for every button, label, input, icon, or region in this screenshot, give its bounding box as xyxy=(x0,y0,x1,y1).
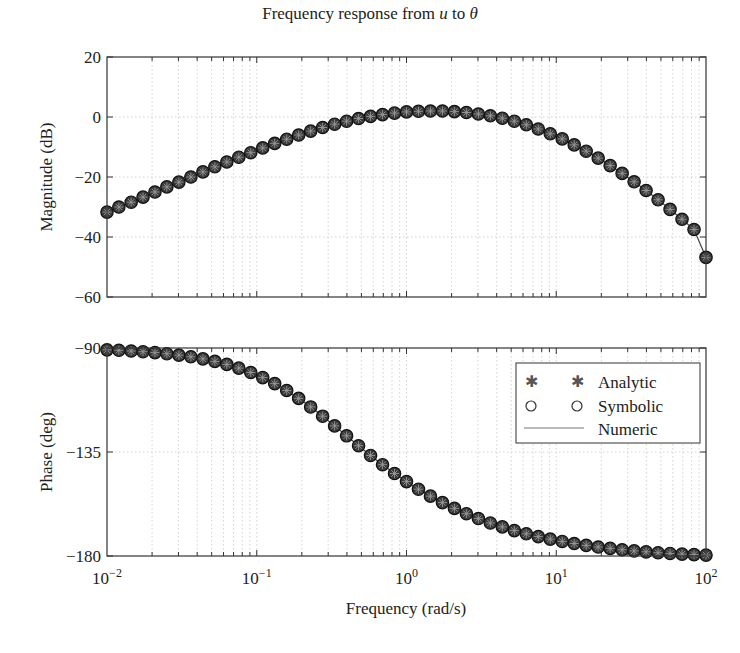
analytic-marker xyxy=(246,368,255,377)
analytic-marker xyxy=(438,498,447,507)
magnitude-ylabel: Magnitude (dB) xyxy=(37,122,56,231)
analytic-marker xyxy=(642,547,651,556)
analytic-marker xyxy=(282,386,291,395)
analytic-marker xyxy=(282,135,291,144)
analytic-marker xyxy=(306,127,315,136)
analytic-marker xyxy=(582,541,591,550)
analytic-marker xyxy=(318,123,327,132)
analytic-marker xyxy=(558,537,567,546)
analytic-marker xyxy=(690,225,699,234)
analytic-marker xyxy=(210,162,219,171)
analytic-marker xyxy=(330,421,339,430)
analytic-marker xyxy=(462,108,471,117)
magnitude-y-ticks: 200−20−40−60 xyxy=(74,48,101,307)
analytic-marker xyxy=(366,451,375,460)
analytic-marker xyxy=(366,112,375,121)
analytic-marker xyxy=(414,485,423,494)
analytic-marker xyxy=(114,346,123,355)
analytic-marker xyxy=(426,492,435,501)
analytic-marker xyxy=(186,173,195,182)
analytic-marker xyxy=(390,109,399,118)
y-tick-label: 20 xyxy=(84,48,101,67)
legend-label-analytic: Analytic xyxy=(598,373,657,392)
phase-y-ticks: −90−135−180 xyxy=(66,339,101,566)
analytic-marker xyxy=(630,177,639,186)
analytic-marker xyxy=(450,107,459,116)
legend-label-symbolic: Symbolic xyxy=(598,397,664,416)
legend: ✱ ✱ Analytic Symbolic Numeric xyxy=(516,363,700,443)
x-tick-label: 10−1 xyxy=(242,566,272,588)
analytic-marker xyxy=(606,544,615,553)
analytic-marker xyxy=(462,509,471,518)
y-tick-label: −180 xyxy=(66,547,101,566)
analytic-marker xyxy=(510,526,519,535)
analytic-marker xyxy=(570,140,579,149)
analytic-marker xyxy=(402,477,411,486)
y-tick-label: −40 xyxy=(74,228,101,247)
analytic-marker xyxy=(414,107,423,116)
analytic-marker xyxy=(174,178,183,187)
analytic-marker xyxy=(234,153,243,162)
analytic-marker xyxy=(522,120,531,129)
analytic-marker xyxy=(426,107,435,116)
analytic-marker xyxy=(666,205,675,214)
analytic-marker xyxy=(270,139,279,148)
analytic-marker xyxy=(498,114,507,123)
analytic-marker xyxy=(186,352,195,361)
analytic-marker xyxy=(222,158,231,167)
analytic-marker xyxy=(402,107,411,116)
analytic-marker xyxy=(127,198,136,207)
analytic-marker xyxy=(642,186,651,195)
x-tick-labels: 10−210−1100101102 xyxy=(92,566,717,588)
analytic-marker xyxy=(198,354,207,363)
x-axis-label: Frequency (rad/s) xyxy=(346,599,466,618)
analytic-marker xyxy=(486,518,495,527)
analytic-marker xyxy=(222,360,231,369)
analytic-marker xyxy=(450,504,459,513)
analytic-marker xyxy=(510,117,519,126)
analytic-marker xyxy=(618,169,627,178)
y-tick-label: −90 xyxy=(74,339,101,358)
analytic-marker xyxy=(150,188,159,197)
asterisk-marker-icon: ✱ xyxy=(571,373,584,390)
analytic-marker xyxy=(139,193,148,202)
analytic-marker xyxy=(474,110,483,119)
analytic-marker xyxy=(378,110,387,119)
analytic-marker xyxy=(342,117,351,126)
analytic-marker xyxy=(546,535,555,544)
y-tick-label: −135 xyxy=(66,443,101,462)
analytic-marker xyxy=(522,529,531,538)
analytic-marker xyxy=(438,107,447,116)
analytic-marker xyxy=(270,379,279,388)
bode-figure: 200−20−40−60 −90−135−180 10−210−11001011… xyxy=(0,0,740,653)
numeric-line xyxy=(107,111,706,257)
x-tick-label: 102 xyxy=(695,566,718,588)
analytic-marker xyxy=(342,431,351,440)
analytic-marker xyxy=(198,167,207,176)
analytic-marker xyxy=(594,542,603,551)
analytic-marker xyxy=(390,469,399,478)
analytic-marker xyxy=(378,460,387,469)
y-tick-label: 0 xyxy=(93,108,102,127)
analytic-marker xyxy=(498,522,507,531)
analytic-marker xyxy=(150,348,159,357)
analytic-marker xyxy=(594,154,603,163)
analytic-marker xyxy=(330,120,339,129)
analytic-marker xyxy=(474,514,483,523)
analytic-marker xyxy=(306,402,315,411)
analytic-marker xyxy=(114,203,123,212)
phase-ylabel: Phase (deg) xyxy=(37,412,56,492)
analytic-marker xyxy=(690,550,699,559)
analytic-marker xyxy=(294,394,303,403)
x-tick-label: 100 xyxy=(395,566,418,588)
analytic-marker xyxy=(630,546,639,555)
analytic-marker xyxy=(258,373,267,382)
analytic-marker xyxy=(666,549,675,558)
analytic-marker xyxy=(570,539,579,548)
legend-label-numeric: Numeric xyxy=(598,420,658,439)
asterisk-marker-icon: ✱ xyxy=(525,373,538,390)
y-tick-label: −20 xyxy=(74,168,101,187)
magnitude-series xyxy=(101,105,712,264)
analytic-marker xyxy=(318,412,327,421)
analytic-marker xyxy=(582,147,591,156)
